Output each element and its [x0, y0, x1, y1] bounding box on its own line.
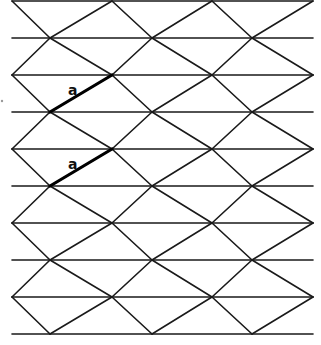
diagonal-line [152, 38, 212, 75]
diagonal-line [252, 38, 313, 75]
diagonal-line [12, 297, 50, 334]
diagonal-line [50, 297, 112, 334]
diagonal-line [50, 223, 112, 260]
diagonal-line [12, 260, 50, 297]
diagonal-line [12, 223, 50, 260]
diagonal-line [252, 186, 313, 223]
lattice-diagram: a a [0, 0, 321, 345]
diagonal-line [112, 38, 152, 75]
diagonal-line [212, 149, 252, 186]
diagonal-line [152, 75, 212, 112]
diagonal-line [50, 112, 112, 149]
diagonal-line [252, 297, 313, 334]
diagonal-line [252, 75, 313, 112]
diagonal-line [112, 297, 152, 334]
diagonal-line [152, 260, 212, 297]
diagonal-line [252, 1, 313, 38]
diagonal-line [50, 186, 112, 223]
diagonal-line [112, 260, 152, 297]
diagonal-line [212, 1, 252, 38]
diagonal-line [112, 1, 152, 38]
diagonal-line [152, 223, 212, 260]
diagonal-line [12, 1, 50, 38]
diagonal-line [12, 149, 50, 186]
diagonal-line [50, 38, 112, 75]
diagonal-line [152, 149, 212, 186]
highlighted-segment-a [50, 75, 112, 112]
diagonal-line [212, 75, 252, 112]
diagonal-line [212, 186, 252, 223]
diagonal-line [12, 38, 50, 75]
diagonal-line [252, 223, 313, 260]
diagonal-line [252, 260, 313, 297]
diagonal-line [252, 112, 313, 149]
diagonal-line [152, 297, 212, 334]
diagonal-line [12, 186, 50, 223]
diagonal-line [112, 186, 152, 223]
diagonal-line [12, 112, 50, 149]
diagonal-lines [12, 1, 313, 334]
diagonal-line [112, 223, 152, 260]
stray-dot [1, 100, 3, 102]
diagonal-line [50, 260, 112, 297]
diagonal-line [112, 75, 152, 112]
diagonal-line [212, 223, 252, 260]
diagonal-line [212, 260, 252, 297]
horizontal-lines [12, 1, 313, 334]
diagonal-line [152, 1, 212, 38]
diagonal-line [112, 149, 152, 186]
diagonal-line [212, 297, 252, 334]
diagonal-line [50, 1, 112, 38]
diagonal-line [152, 186, 212, 223]
diagonal-line [152, 112, 212, 149]
highlighted-segment-a [50, 149, 112, 186]
diagonal-line [212, 38, 252, 75]
segment-label-a-upper: a [68, 82, 77, 98]
diagonal-line [212, 112, 252, 149]
diagonal-line [252, 149, 313, 186]
diagonal-line [112, 112, 152, 149]
segment-label-a-lower: a [68, 156, 77, 172]
diagonal-line [12, 75, 50, 112]
